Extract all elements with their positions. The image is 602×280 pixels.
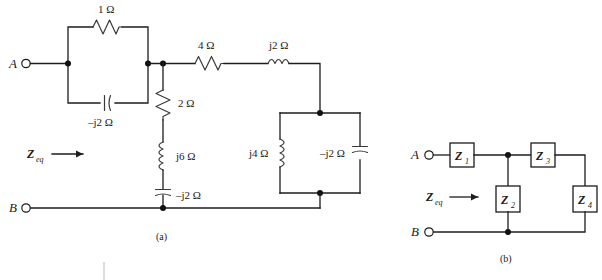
loop-left-parallel: 1 Ω –j2 Ω xyxy=(68,3,148,128)
impedance-z3: Z 3 xyxy=(531,143,555,167)
resistor-1-ohm-label: 1 Ω xyxy=(98,3,114,15)
zeq-sub-b: eq xyxy=(435,198,443,207)
terminal-a-left-label: A xyxy=(8,56,17,71)
zeq-sub-a: eq xyxy=(36,155,44,164)
impedance-z4: Z 4 xyxy=(573,186,597,212)
terminal-b-left-label: B xyxy=(9,200,17,215)
node-bottom-middle xyxy=(160,205,166,211)
capacitor-neg-j2-ohm-middle-label: –j2 Ω xyxy=(175,189,201,201)
capacitor-neg-j2-ohm-left: –j2 Ω xyxy=(87,96,113,129)
panel-b: A Z 1 Z 3 Z 2 Z 4 xyxy=(410,143,597,265)
impedance-z3-sub: 3 xyxy=(545,157,550,166)
impedance-z1-label: Z xyxy=(454,149,463,163)
node-right-box-top xyxy=(317,110,323,116)
wire-left-loop-topright xyxy=(122,27,148,64)
impedance-z3-label: Z xyxy=(535,149,544,163)
zeq-annotation-b: Z eq xyxy=(425,190,478,207)
resistor-2-ohm-label: 2 Ω xyxy=(178,97,194,109)
terminal-a-right: A xyxy=(410,147,450,162)
impedance-z1-sub: 1 xyxy=(465,157,469,166)
impedance-z4-sub: 4 xyxy=(588,201,592,210)
zeq-label-b: Z xyxy=(425,190,434,204)
resistor-4-ohm: 4 Ω xyxy=(195,39,224,70)
wire-z4-to-bottom xyxy=(508,212,585,232)
node-b-bottom-middle xyxy=(505,229,511,235)
branch-middle-vertical: 2 Ω j6 Ω –j2 Ω xyxy=(156,64,201,209)
terminal-a-right-label: A xyxy=(410,147,419,162)
resistor-4-ohm-label: 4 Ω xyxy=(198,39,214,51)
terminal-b-right-node xyxy=(425,228,433,236)
inductor-j6-ohm-label: j6 Ω xyxy=(175,150,195,162)
impedance-z1: Z 1 xyxy=(450,143,474,167)
capacitor-neg-j2-ohm-left-label: –j2 Ω xyxy=(87,116,113,128)
wire-j2ohm-down-to-box xyxy=(289,64,320,114)
inductor-j2-ohm: j2 Ω xyxy=(268,39,289,64)
terminal-a-left-node xyxy=(22,59,30,67)
wire-left-loop-botleft xyxy=(68,64,100,104)
node-left-junction xyxy=(65,61,71,67)
zeq-arrow-head-a xyxy=(76,151,83,158)
zeq-arrow-head-b xyxy=(471,194,478,201)
terminal-b-right-label: B xyxy=(411,224,419,239)
capacitor-neg-j2-ohm-right: –j2 Ω xyxy=(319,147,368,160)
impedance-z2: Z 2 xyxy=(496,186,520,212)
terminal-b-left-node xyxy=(22,204,30,212)
impedance-z2-label: Z xyxy=(500,193,509,207)
terminal-a-left: A xyxy=(8,56,68,71)
zeq-label-a: Z xyxy=(26,147,35,161)
panel-b-caption: (b) xyxy=(500,253,512,265)
panel-a-caption: (a) xyxy=(156,231,167,243)
inductor-j2-ohm-label: j2 Ω xyxy=(268,39,288,51)
wire-z3-to-z4 xyxy=(555,155,585,186)
impedance-z2-sub: 2 xyxy=(511,201,515,210)
terminal-b-left: B xyxy=(9,200,30,215)
resistor-2-ohm: 2 Ω xyxy=(156,90,194,120)
inductor-j6-ohm: j6 Ω xyxy=(159,142,195,170)
zeq-annotation-a: Z eq xyxy=(26,147,83,164)
resistor-1-ohm: 1 Ω xyxy=(93,3,122,34)
impedance-z4-label: Z xyxy=(577,193,586,207)
panel-a: A 1 Ω –j2 Ω xyxy=(8,3,368,243)
wire-left-loop-topleft xyxy=(68,27,93,64)
circuit-figure: A 1 Ω –j2 Ω xyxy=(0,0,602,280)
terminal-b-right: B xyxy=(411,224,433,239)
loop-right-parallel: j4 Ω –j2 Ω xyxy=(248,110,368,196)
wire-left-loop-botright xyxy=(115,64,148,104)
capacitor-neg-j2-ohm-middle: –j2 Ω xyxy=(156,189,201,201)
capacitor-neg-j2-ohm-right-label: –j2 Ω xyxy=(319,147,345,159)
inductor-j4-ohm: j4 Ω xyxy=(248,139,284,167)
terminal-a-right-node xyxy=(425,151,433,159)
inductor-j4-ohm-label: j4 Ω xyxy=(248,147,268,159)
